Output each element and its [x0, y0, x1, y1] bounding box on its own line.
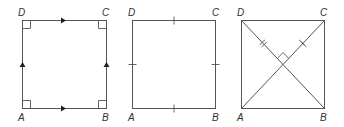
- label-b: B: [102, 112, 109, 123]
- label-c: C: [102, 7, 110, 18]
- square-3-diagonals: D C A B: [236, 7, 328, 123]
- label-c: C: [212, 7, 220, 18]
- label-a: A: [236, 112, 244, 123]
- parallel-arrow-dc-icon: [61, 18, 66, 24]
- right-angle-a-icon: [23, 101, 31, 109]
- label-d: D: [18, 7, 25, 18]
- label-d: D: [128, 7, 135, 18]
- label-c: C: [320, 7, 328, 18]
- label-a: A: [127, 112, 135, 123]
- label-b: B: [212, 112, 219, 123]
- square-1-outline: [23, 21, 107, 109]
- square-properties-diagram: D C A B D C A B D C A B: [0, 0, 344, 127]
- label-d: D: [237, 7, 244, 18]
- right-angle-d-icon: [23, 21, 31, 29]
- square-2-equal-sides: D C A B: [127, 7, 220, 123]
- right-angle-b-icon: [99, 101, 107, 109]
- label-b: B: [320, 112, 327, 123]
- parallel-arrow-ab-icon: [61, 106, 66, 112]
- right-angle-centre-icon: [277, 53, 288, 59]
- parallel-arrow-bc-icon: [104, 62, 110, 67]
- right-angle-c-icon: [99, 21, 107, 29]
- square-2-outline: [133, 21, 216, 109]
- square-1-parallel-right-angles: D C A B: [17, 7, 110, 123]
- parallel-arrow-ad-icon: [20, 62, 26, 67]
- label-a: A: [17, 112, 25, 123]
